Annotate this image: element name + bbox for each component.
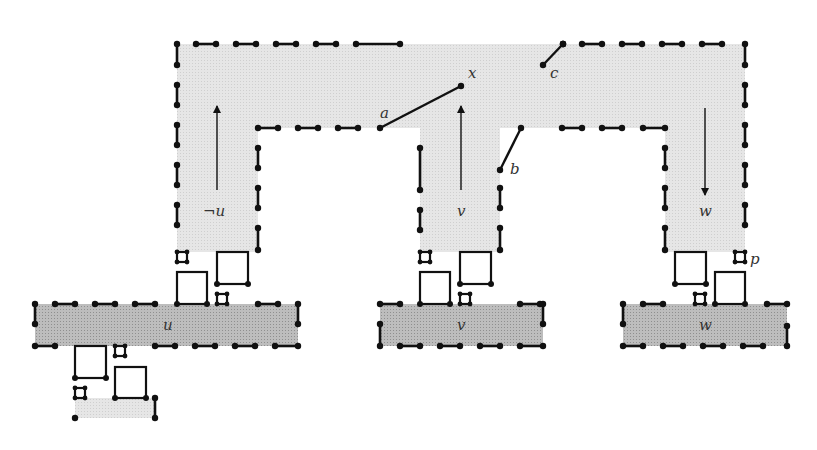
vertex-dot — [174, 222, 180, 228]
square-box — [177, 272, 207, 304]
vertex-dot — [225, 302, 230, 307]
vertex-dot — [468, 292, 473, 297]
vertex-dot — [458, 292, 463, 297]
vertex-dot — [699, 41, 705, 47]
label-c: c — [550, 64, 559, 82]
vertex-dot — [742, 182, 748, 188]
vertex-dot — [540, 301, 546, 307]
vertex-dot — [693, 302, 698, 307]
vertex-dot — [123, 354, 128, 359]
square-box — [460, 252, 491, 284]
label-w-leg: w — [699, 202, 712, 220]
vertex-dot — [174, 162, 180, 168]
vertex-dot — [72, 375, 78, 381]
vertex-dot — [377, 301, 383, 307]
vertex-dot — [579, 125, 585, 131]
vertex-dot — [660, 343, 666, 349]
vertex-dot — [742, 202, 748, 208]
vertex-dot — [700, 343, 706, 349]
vertex-dot — [447, 301, 453, 307]
square-box — [420, 272, 450, 304]
vertex-dot — [103, 375, 109, 381]
square-box — [75, 346, 106, 378]
vertex-dot — [540, 62, 546, 68]
vertex-dot — [113, 344, 118, 349]
vertex-dot — [215, 292, 220, 297]
vertex-dot — [232, 343, 238, 349]
vertex-dot — [353, 41, 359, 47]
vertex-dot — [355, 125, 361, 131]
vertex-dot — [255, 165, 261, 171]
label-b: b — [510, 160, 520, 178]
vertex-dot — [315, 125, 321, 131]
vertex-dot — [428, 250, 433, 255]
vertex-dot — [417, 145, 423, 151]
vertex-dot — [733, 250, 738, 255]
vertex-dot — [172, 343, 178, 349]
vertex-dot — [468, 302, 473, 307]
vertex-dot — [52, 301, 58, 307]
vertex-dot — [152, 343, 158, 349]
vertex-dot — [437, 343, 443, 349]
vertex-dot — [640, 343, 646, 349]
vertex-dot — [428, 260, 433, 265]
vertex-dot — [72, 415, 78, 421]
vertex-dot — [662, 165, 668, 171]
vertex-dot — [123, 344, 128, 349]
vertex-dot — [743, 260, 748, 265]
square-box — [715, 272, 745, 304]
vertex-dot — [579, 41, 585, 47]
vertex-dot — [255, 247, 261, 253]
vertex-dot — [599, 125, 605, 131]
vertex-dot — [620, 321, 626, 327]
vertex-dot — [417, 343, 423, 349]
vertex-dot — [733, 260, 738, 265]
vertex-dot — [742, 122, 748, 128]
vertex-dot — [333, 41, 339, 47]
vertex-dot — [112, 301, 118, 307]
vertex-dot — [560, 41, 566, 47]
vertex-dot — [113, 354, 118, 359]
vertex-dot — [215, 302, 220, 307]
vertex-dot — [497, 343, 503, 349]
vertex-dot — [742, 301, 748, 307]
vertex-dot — [784, 301, 790, 307]
vertex-dot — [620, 301, 626, 307]
vertex-dot — [83, 386, 88, 391]
vertex-dot — [693, 292, 698, 297]
vertex-dot — [73, 386, 78, 391]
vertex-dot — [764, 301, 770, 307]
vertex-dot — [295, 301, 301, 307]
vertex-dot — [662, 205, 668, 211]
label-u-bar: u — [163, 316, 173, 334]
vertex-dot — [662, 185, 668, 191]
vertex-dot — [193, 41, 199, 47]
vertex-dot — [417, 207, 423, 213]
vertex-dot — [225, 292, 230, 297]
vertex-dot — [143, 395, 149, 401]
vertex-dot — [174, 62, 180, 68]
vertex-dot — [619, 41, 625, 47]
vertex-dot — [112, 395, 118, 401]
vertex-dot — [132, 301, 138, 307]
vertex-dot — [335, 125, 341, 131]
vertex-dot — [418, 250, 423, 255]
vertex-dot — [497, 247, 503, 253]
vertex-dot — [760, 343, 766, 349]
vertex-dot — [174, 202, 180, 208]
vertex-dot — [295, 125, 301, 131]
vertex-dot — [488, 281, 494, 287]
vertex-dot — [417, 301, 423, 307]
square-box — [675, 252, 706, 284]
vertex-dot — [272, 343, 278, 349]
vertex-dot — [397, 41, 403, 47]
vertex-dot — [703, 302, 708, 307]
vertex-dot — [742, 162, 748, 168]
vertex-dot — [660, 301, 666, 307]
vertex-dot — [742, 102, 748, 108]
square-box — [217, 252, 248, 284]
vertex-dot — [255, 205, 261, 211]
label-p: p — [750, 250, 760, 268]
vertex-dot — [540, 343, 546, 349]
vertex-dot — [152, 301, 158, 307]
